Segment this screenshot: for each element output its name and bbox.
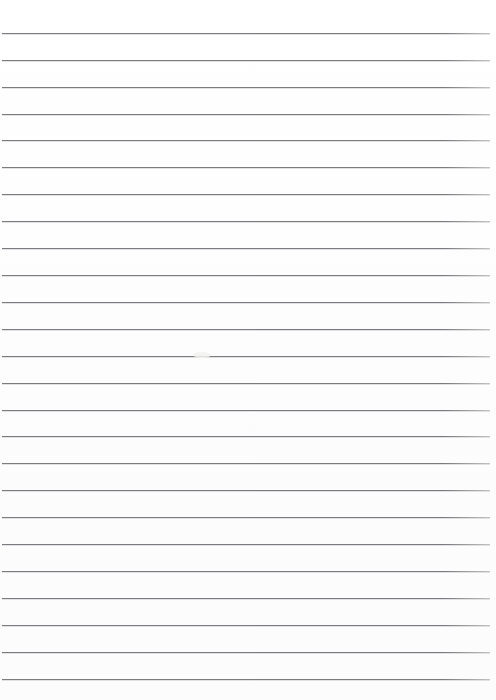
lined-paper-page (0, 0, 496, 700)
writing-area[interactable] (0, 0, 496, 700)
